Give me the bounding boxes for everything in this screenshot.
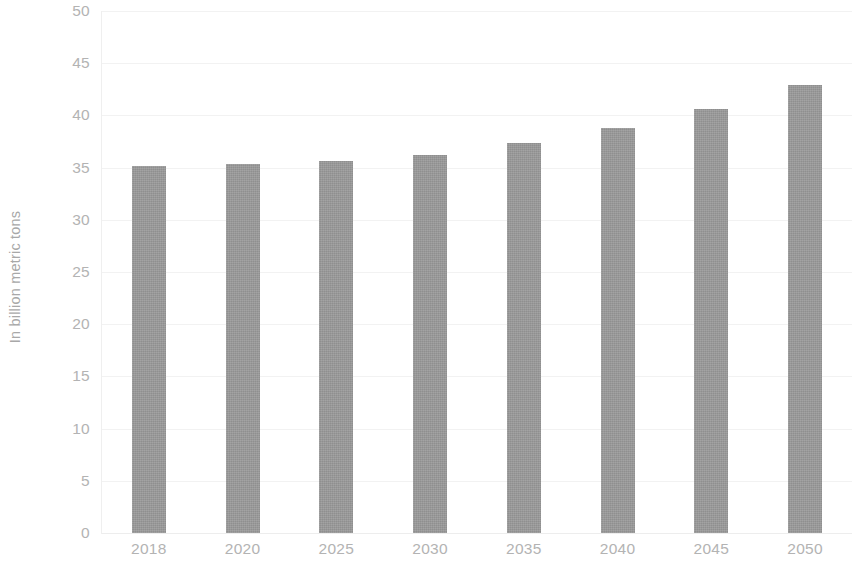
y-axis-tick-label: 20	[30, 315, 90, 333]
x-axis-tick-label: 2018	[104, 540, 194, 558]
y-axis-title: In billion metric tons	[0, 0, 30, 569]
x-axis-tick-label: 2025	[291, 540, 381, 558]
x-axis-tick-labels: 20182020202520302035204020452050	[102, 538, 852, 569]
bar	[319, 161, 353, 533]
y-axis-tick-labels: 05101520253035404550	[28, 0, 90, 569]
x-axis-tick-label: 2045	[666, 540, 756, 558]
gridline	[102, 429, 852, 430]
x-axis-tick-label: 2020	[198, 540, 288, 558]
y-axis-tick-label: 15	[30, 367, 90, 385]
x-axis-tick-label: 2040	[573, 540, 663, 558]
bar	[601, 128, 635, 533]
y-axis-tick-label: 25	[30, 263, 90, 281]
bar	[694, 109, 728, 533]
x-axis-tick-label: 2030	[385, 540, 475, 558]
bar	[132, 166, 166, 533]
bar	[788, 85, 822, 533]
bar	[226, 164, 260, 533]
y-axis-tick-label: 40	[30, 106, 90, 124]
y-axis-tick-label: 0	[30, 524, 90, 542]
y-axis-tick-label: 45	[30, 54, 90, 72]
x-axis-tick-label: 2035	[479, 540, 569, 558]
bar-chart: In billion metric tons 05101520253035404…	[0, 0, 860, 569]
gridline	[102, 272, 852, 273]
gridline	[102, 533, 852, 534]
y-axis-tick-label: 35	[30, 159, 90, 177]
gridline	[102, 63, 852, 64]
y-axis-tick-label: 5	[30, 472, 90, 490]
gridline	[102, 324, 852, 325]
gridline	[102, 376, 852, 377]
gridline	[102, 11, 852, 12]
y-axis-tick-label: 10	[30, 420, 90, 438]
bar	[507, 143, 541, 533]
bar	[413, 155, 447, 533]
gridline	[102, 481, 852, 482]
y-axis-tick-label: 30	[30, 211, 90, 229]
gridline	[102, 220, 852, 221]
y-axis-tick-label: 50	[30, 2, 90, 20]
x-axis-tick-label: 2050	[760, 540, 850, 558]
y-axis-title-text: In billion metric tons	[7, 210, 23, 343]
plot-area	[102, 11, 852, 533]
gridline	[102, 115, 852, 116]
gridline	[102, 168, 852, 169]
